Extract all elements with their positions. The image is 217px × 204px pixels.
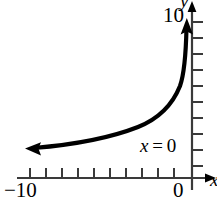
y-axis-name-label: y — [180, 0, 188, 10]
x-axis-ticks — [30, 168, 174, 178]
x-axis-tick-label-neg10: −10 — [4, 180, 37, 201]
x-axis-tick-label-0: 0 — [173, 180, 184, 201]
graph-canvas — [0, 0, 217, 204]
log-curve-path — [34, 28, 187, 148]
y-axis-arrowhead — [188, 1, 197, 12]
graph-figure: 10 −10 0 y x x = 0 — [0, 0, 217, 204]
asymptote-equals-sign: = — [152, 135, 163, 156]
x-axis-group — [17, 168, 216, 182]
asymptote-value: 0 — [167, 135, 177, 156]
x-axis-name-label: x — [210, 170, 217, 189]
y-axis-ticks — [192, 22, 203, 166]
asymptote-annotation: x = 0 — [140, 136, 176, 155]
asymptote-variable: x — [140, 135, 148, 156]
